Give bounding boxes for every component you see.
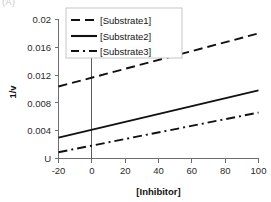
x-ticklabel-100: 100 — [251, 165, 267, 176]
x-ticklabel-0: 0 — [89, 165, 94, 176]
legend: [Substrate1] [Substrate2] [Substrate3] — [66, 8, 182, 58]
series-line-substrate2 — [59, 90, 259, 137]
y-ticklabel-0: U — [44, 153, 51, 164]
chart-svg: 0.02 0.016 0.012 0.008 0.004 U -20 0 20 … — [0, 0, 271, 202]
legend-label-substrate3: [Substrate3] — [100, 46, 151, 57]
y-ticklabel-0.016: 0.016 — [27, 42, 51, 53]
x-ticklabel--20: -20 — [52, 165, 66, 176]
dixon-plot-figure: (A) 0.02 0.016 0.012 0.008 0.004 — [0, 0, 271, 202]
legend-label-substrate1: [Substrate1] — [100, 15, 151, 26]
y-ticklabel-0.012: 0.012 — [27, 70, 51, 81]
x-tick-marks — [59, 159, 259, 163]
legend-label-substrate2: [Substrate2] — [100, 31, 151, 42]
y-axis-title: 1/v — [7, 85, 18, 99]
x-axis-title: [Inhibitor] — [136, 186, 180, 197]
x-ticklabel-60: 60 — [187, 165, 198, 176]
y-ticklabel-0.008: 0.008 — [27, 98, 51, 109]
panel-tag: (A) — [2, 0, 16, 7]
x-ticklabel-40: 40 — [153, 165, 164, 176]
y-ticklabel-0.004: 0.004 — [27, 125, 51, 136]
x-ticklabel-20: 20 — [120, 165, 131, 176]
y-tick-marks — [55, 20, 59, 159]
x-ticklabel-80: 80 — [220, 165, 231, 176]
y-ticklabel-0.02: 0.02 — [33, 14, 52, 25]
series-line-substrate3 — [59, 113, 259, 153]
